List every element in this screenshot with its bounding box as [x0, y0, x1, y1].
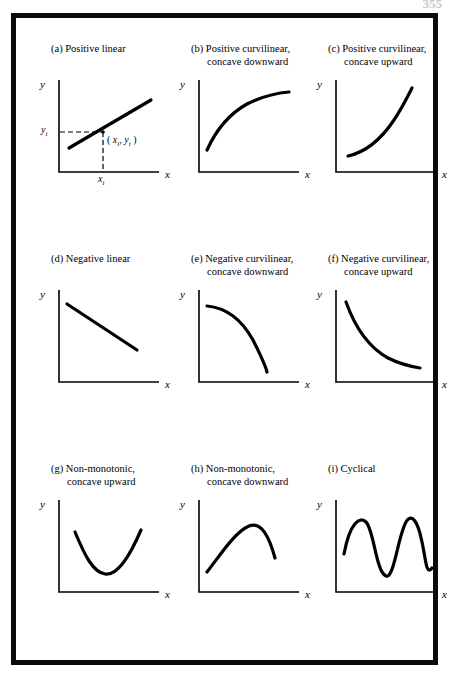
panel-e-caption: (e) Negative curvilinear, concave downwa… — [191, 253, 312, 278]
panel-c-axes — [336, 80, 436, 172]
panel-h-svg — [177, 492, 312, 610]
panel-c-caption: (c) Positive curvilinear, concave upward — [328, 43, 449, 68]
panel-f-svg — [314, 282, 449, 400]
page-number: 355 — [423, 0, 443, 12]
panel-e: (e) Negative curvilinear, concave downwa… — [177, 253, 312, 400]
panel-c-plot: y x — [314, 72, 449, 190]
panel-h-y-axis-label: y — [180, 498, 185, 510]
panel-c: (c) Positive curvilinear, concave upward… — [314, 43, 449, 190]
panel-a-data-point — [101, 130, 105, 134]
panel-d: (d) Negative linear y x — [37, 253, 172, 400]
panel-i-caption: (i) Cyclical — [328, 463, 449, 488]
panel-i-svg — [314, 492, 449, 610]
panel-c-y-axis-label: y — [317, 78, 322, 90]
panel-i-y-axis-label: y — [317, 498, 322, 510]
panel-g-y-axis-label: y — [40, 498, 45, 510]
panel-b-y-axis-label: y — [180, 78, 185, 90]
panel-g-axes — [59, 500, 159, 592]
panel-b-data-curve — [207, 92, 289, 150]
panel-f-plot: y x — [314, 282, 449, 400]
panel-g-svg — [37, 492, 172, 610]
panel-a: (a) Positive linear — [37, 43, 172, 190]
panel-f-data-curve — [346, 302, 420, 368]
panel-f-y-axis-label: y — [317, 288, 322, 300]
panel-a-plot: y x yi xi ( xi, yi ) — [37, 72, 172, 190]
panel-b: (b) Positive curvilinear, concave downwa… — [177, 43, 312, 190]
panel-c-x-axis-label: x — [442, 168, 447, 180]
panel-e-plot: y x — [177, 282, 312, 400]
panel-f: (f) Negative curvilinear, concave upward… — [314, 253, 449, 400]
panel-f-x-axis-label: x — [442, 378, 447, 390]
panel-a-point-annotation: ( xi, yi ) — [107, 134, 137, 148]
panel-f-caption: (f) Negative curvilinear, concave upward — [328, 253, 449, 278]
panel-a-svg — [37, 72, 172, 190]
panel-grid: (a) Positive linear — [19, 21, 430, 657]
panel-i-data-curve — [344, 518, 432, 576]
panel-h-axes — [199, 500, 299, 592]
panel-a-caption: (a) Positive linear — [51, 43, 172, 68]
panel-e-y-axis-label: y — [180, 288, 185, 300]
panel-a-x-tick-sub: i — [102, 179, 104, 187]
panel-row-bottom: (g) Non-monotonic, concave upward y x (h… — [29, 463, 420, 673]
point-close-paren: ) — [131, 134, 137, 145]
panel-b-svg — [177, 72, 312, 190]
figure-frame: (a) Positive linear — [11, 13, 438, 665]
panel-d-axes — [59, 290, 159, 382]
panel-h: (h) Non-monotonic, concave downward y x — [177, 463, 312, 610]
panel-g-plot: y x — [37, 492, 172, 610]
panel-d-data-line — [67, 304, 137, 350]
panel-h-x-axis-label: x — [305, 588, 310, 600]
panel-c-data-curve — [348, 88, 412, 156]
panel-d-caption: (d) Negative linear — [51, 253, 172, 278]
panel-i-axes — [336, 500, 436, 592]
panel-g-caption: (g) Non-monotonic, concave upward — [51, 463, 172, 488]
panel-a-y-axis-label: y — [40, 78, 45, 90]
panel-a-y-tick-label: yi — [41, 124, 47, 138]
panel-d-svg — [37, 282, 172, 400]
panel-a-y-tick-sub: i — [45, 130, 47, 138]
panel-i-x-axis-label: x — [442, 588, 447, 600]
panel-e-x-axis-label: x — [305, 378, 310, 390]
panel-g-x-axis-label: x — [165, 588, 170, 600]
panel-h-plot: y x — [177, 492, 312, 610]
panel-a-x-tick-label: xi — [98, 173, 104, 187]
panel-d-plot: y x — [37, 282, 172, 400]
panel-g-data-curve — [75, 530, 141, 574]
panel-c-svg — [314, 72, 449, 190]
panel-i: (i) Cyclical y x — [314, 463, 449, 610]
panel-a-x-axis-label: x — [165, 168, 170, 180]
figure-frame-inner: (a) Positive linear — [18, 20, 431, 658]
panel-b-x-axis-label: x — [305, 168, 310, 180]
panel-h-caption: (h) Non-monotonic, concave downward — [191, 463, 312, 488]
panel-e-svg — [177, 282, 312, 400]
panel-g: (g) Non-monotonic, concave upward y x — [37, 463, 172, 610]
panel-h-data-curve — [207, 525, 275, 572]
panel-b-plot: y x — [177, 72, 312, 190]
panel-e-data-curve — [207, 306, 267, 372]
panel-b-caption: (b) Positive curvilinear, concave downwa… — [191, 43, 312, 68]
panel-d-y-axis-label: y — [40, 288, 45, 300]
panel-i-plot: y x — [314, 492, 449, 610]
panel-d-x-axis-label: x — [165, 378, 170, 390]
panel-row-top: (a) Positive linear — [29, 43, 420, 253]
panel-row-middle: (d) Negative linear y x (e) Negative cur… — [29, 253, 420, 463]
